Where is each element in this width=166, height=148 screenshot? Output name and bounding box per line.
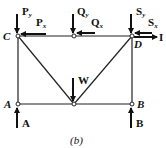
pin-a [16,102,20,106]
label-i: I [159,31,163,43]
label-sx: Sx [148,16,158,30]
truss-members [18,36,132,104]
left-diagonal [18,36,74,104]
label-force-a: A [22,117,30,129]
pin-b [130,102,134,106]
label-py: Py [22,5,33,19]
pin-center [72,102,76,106]
label-px: Px [36,16,47,30]
label-node-a: A [3,98,11,110]
label-qy: Qy [77,5,90,19]
label-sy: Sy [136,5,146,19]
pin-q [72,34,76,38]
label-force-b: B [136,117,144,129]
label-qx: Qx [91,16,104,30]
right-diagonal [74,36,132,104]
label-node-d: D [133,38,142,50]
figure-caption: (b) [70,134,83,147]
label-w: W [78,74,89,86]
pins [16,34,134,106]
label-node-c: C [3,30,11,42]
pin-c [16,34,20,38]
label-node-b: B [136,98,144,110]
truss-diagram: Py Px Qy Qx Sy Sx I C D W A B A B (b) [0,0,166,148]
